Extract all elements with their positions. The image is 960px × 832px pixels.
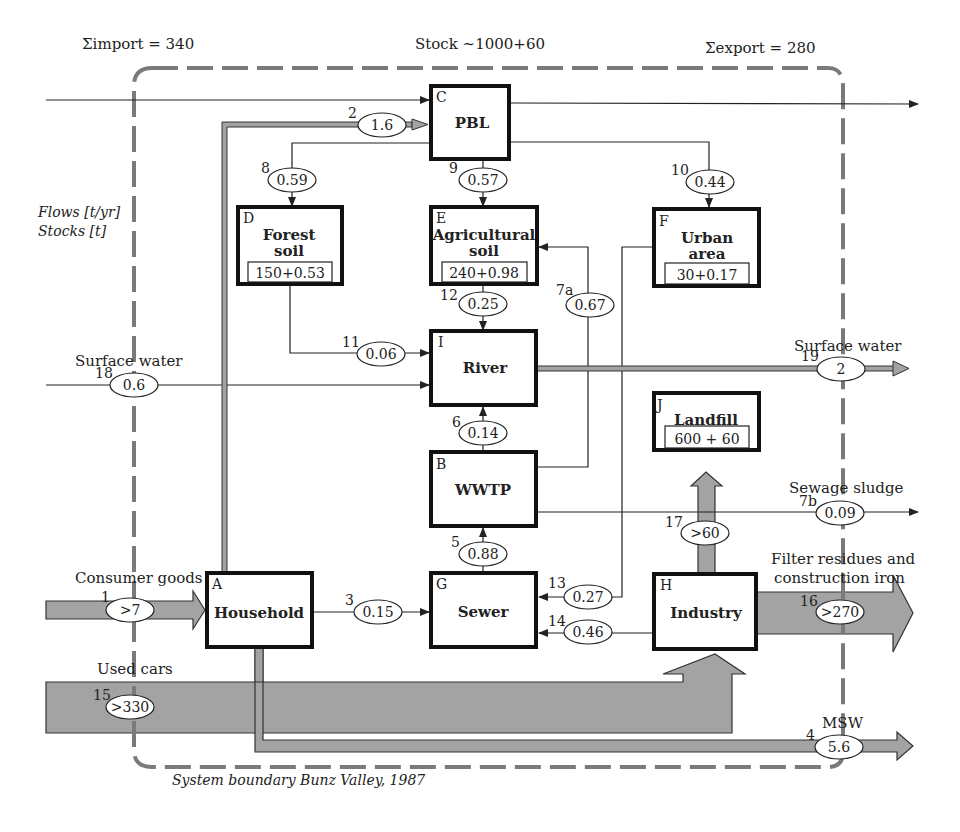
flow-7b-value: 0.09: [824, 505, 855, 521]
process-d-letter: D: [243, 210, 254, 226]
material-flow-diagram: Σimport = 340 Stock ~1000+60 Σexport = 2…: [0, 0, 960, 832]
flow-7b-label: Sewage sludge: [789, 479, 904, 497]
flow-7a-line: [537, 247, 588, 467]
process-a-letter: A: [211, 576, 223, 592]
flow-14-value: 0.46: [572, 624, 603, 640]
process-a-title: Household: [214, 604, 305, 622]
process-h-letter: H: [660, 577, 672, 593]
flow-11-id: 11: [342, 334, 360, 350]
flow-10-id: 10: [671, 162, 689, 178]
flow-5-id: 5: [451, 534, 460, 550]
flow-18-label: Surface water: [75, 352, 183, 370]
flow-1-id: 1: [101, 589, 110, 605]
flow-1-value: >7: [120, 602, 141, 618]
stock-d-value: 150+0.53: [255, 265, 325, 281]
process-i-title: River: [463, 359, 508, 377]
process-b-letter: B: [436, 456, 446, 472]
stock-j-value: 600 + 60: [674, 431, 739, 447]
import-sum-label: Σimport = 340: [82, 35, 194, 53]
flow-8-value: 0.59: [276, 172, 307, 188]
export-sum-label: Σexport = 280: [705, 39, 816, 57]
flow-3-id: 3: [345, 592, 354, 608]
household-to-band-connector: [255, 648, 263, 682]
flow-7a-id: 7a: [556, 282, 573, 298]
flow-17-value: >60: [690, 525, 720, 541]
process-g-letter: G: [436, 576, 447, 592]
flow-12-id: 12: [440, 287, 458, 303]
flow-9-id: 9: [449, 160, 458, 176]
process-f-letter: F: [659, 213, 669, 229]
flow-16-id: 16: [800, 593, 818, 609]
flow-10-value: 0.44: [694, 174, 725, 190]
process-j-title: Landfill: [674, 411, 738, 429]
flow-19-value: 2: [837, 361, 846, 377]
flow-4-value: 5.6: [828, 739, 850, 755]
flow-2-id: 2: [348, 105, 357, 121]
system-boundary-caption: System boundary Bunz Valley, 1987: [172, 772, 425, 788]
stock-e-value: 240+0.98: [449, 265, 519, 281]
legend-flows: Flows [t/yr]: [37, 204, 121, 220]
process-f-title-2: area: [689, 245, 726, 263]
flow-16-label-2: construction iron: [774, 569, 905, 587]
process-b-title: WWTP: [454, 481, 511, 499]
flow-pbl-export: [510, 103, 918, 104]
stock-f-value: 30+0.17: [677, 267, 738, 283]
flow-6-value: 0.14: [467, 425, 498, 441]
flow-17-id: 17: [665, 514, 683, 530]
process-h-title: Industry: [670, 604, 743, 622]
process-e-letter: E: [436, 210, 446, 226]
process-c-title: PBL: [455, 114, 490, 132]
process-e-title-2: soil: [469, 242, 499, 260]
flow-4-id: 4: [806, 727, 815, 743]
flow-13-id: 13: [548, 575, 566, 591]
flow-8-id: 8: [261, 160, 270, 176]
flow-12-value: 0.25: [467, 296, 498, 312]
flow-11-value: 0.06: [365, 346, 396, 362]
flow-5-value: 0.88: [467, 546, 498, 562]
flow-15-label: Used cars: [97, 660, 173, 678]
flow-7a-value: 0.67: [574, 297, 605, 313]
flow-4-label: MSW: [822, 714, 864, 732]
process-c-letter: C: [436, 89, 447, 105]
flow-1-label: Consumer goods: [75, 569, 203, 587]
flow-6-id: 6: [452, 414, 461, 430]
flow-9-value: 0.57: [467, 172, 498, 188]
flow-16-value: >270: [821, 604, 859, 620]
flow-19-label: Surface water: [794, 337, 902, 355]
process-j-letter: J: [655, 397, 663, 413]
stock-sum-label: Stock ~1000+60: [415, 35, 545, 53]
process-i-letter: I: [438, 334, 444, 350]
process-d-title-2: soil: [274, 242, 304, 260]
legend-stocks: Stocks [t]: [38, 223, 107, 239]
flow-15-value: >330: [111, 699, 149, 715]
flow-14-id: 14: [548, 613, 566, 629]
flow-3-value: 0.15: [362, 604, 393, 620]
process-g-title: Sewer: [458, 603, 510, 621]
flow-13-value: 0.27: [572, 589, 603, 605]
flow-18-value: 0.6: [123, 377, 145, 393]
flow-2-value: 1.6: [371, 117, 393, 133]
flow-16-label-1: Filter residues and: [771, 550, 916, 568]
flow-15-id: 15: [93, 687, 111, 703]
